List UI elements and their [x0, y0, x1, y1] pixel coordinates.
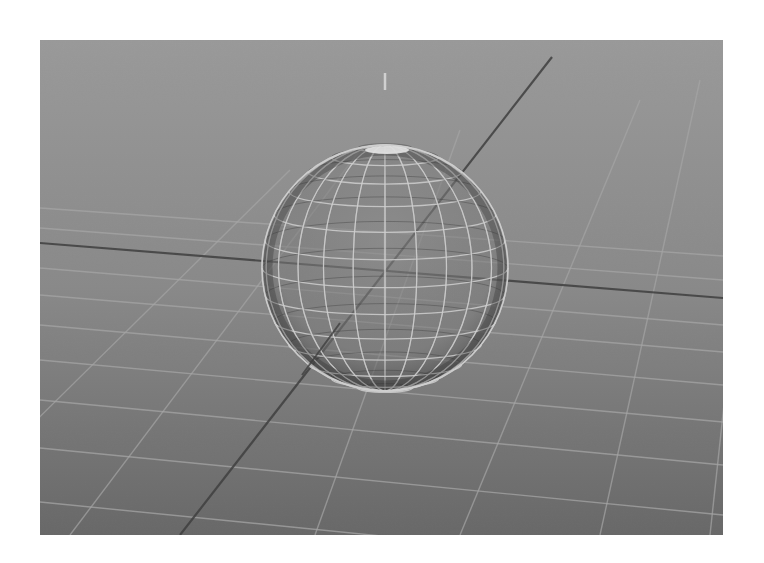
- 3d-viewport[interactable]: [40, 40, 723, 535]
- page: [0, 0, 764, 563]
- viewport-canvas[interactable]: [40, 40, 723, 535]
- noise-overlay: [40, 40, 723, 535]
